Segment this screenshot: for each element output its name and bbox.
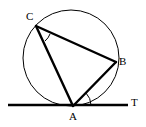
circle-geometry-figure: C B A T bbox=[0, 0, 146, 127]
chord-ca-segment bbox=[36, 26, 73, 106]
angle-arc-at-c bbox=[45, 34, 50, 41]
vertex-label-a: A bbox=[69, 111, 77, 122]
vertex-label-b: B bbox=[119, 56, 126, 67]
tangent-endpoint-label-t: T bbox=[131, 97, 138, 108]
chord-cb-segment bbox=[36, 26, 116, 62]
vertex-label-c: C bbox=[26, 11, 33, 22]
